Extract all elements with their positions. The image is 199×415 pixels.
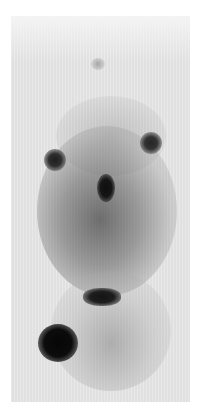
center-spot	[97, 174, 115, 202]
horizontal-band	[83, 288, 121, 306]
large-dark-spot	[38, 324, 78, 362]
faint-top-spot	[91, 58, 105, 70]
right-spot	[140, 132, 162, 154]
tlc-plate	[11, 16, 190, 402]
left-spot	[44, 149, 66, 171]
